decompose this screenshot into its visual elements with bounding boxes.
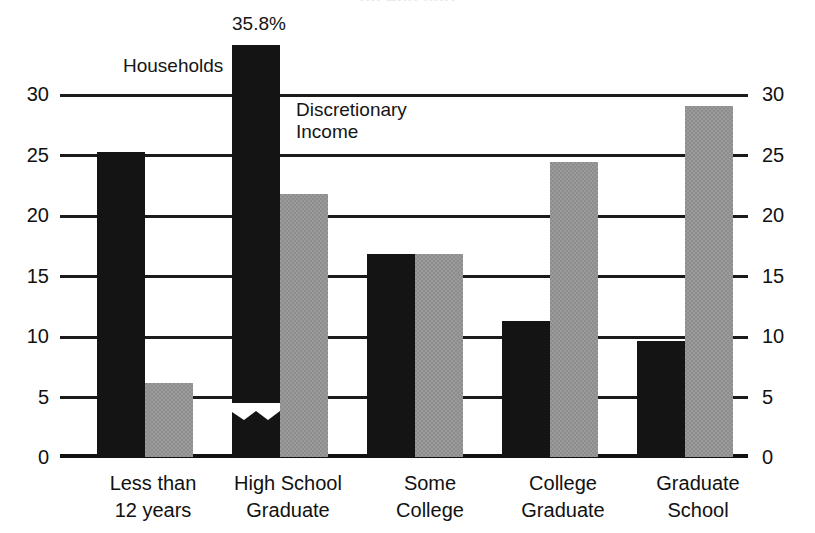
x-axis-label-line2: Graduate: [210, 497, 366, 524]
x-axis-label-line1: Graduate: [620, 470, 776, 497]
gridline-25: [60, 154, 748, 157]
plot-area: [60, 94, 748, 457]
bar-discretionary-some-college: [415, 254, 463, 457]
x-axis-label-less-than-12-years: Less than 12 years: [75, 470, 231, 524]
peak-value-label: 35.8%: [232, 14, 286, 34]
bar-households-less-than-12-years: [97, 152, 145, 457]
x-axis-label-college-graduate: College Graduate: [485, 470, 641, 524]
y-axis-tick-right-5: 5: [762, 387, 806, 407]
x-axis-label-line1: High School: [210, 470, 366, 497]
y-axis-tick-left-0: 0: [5, 447, 49, 467]
x-axis-label-line2: Graduate: [485, 497, 641, 524]
series-label-discretionary-line1: Discretionary: [296, 99, 407, 121]
x-axis-label-line2: School: [620, 497, 776, 524]
axis-break-zigzag-icon: [232, 403, 280, 425]
bar-households-graduate-school: [637, 341, 685, 457]
bar-households-college-graduate: [502, 321, 550, 457]
x-axis-label-line1: College: [485, 470, 641, 497]
bar-households-some-college: [367, 254, 415, 457]
series-label-households: Households: [123, 55, 223, 77]
bar-discretionary-graduate-school: [685, 106, 733, 457]
y-axis-tick-right-20: 20: [762, 205, 806, 225]
gridline-30: [60, 94, 748, 97]
chart-root: (In Percent) 30 25 20 15 10 5 0 30 25 20…: [0, 0, 815, 533]
bar-discretionary-college-graduate: [550, 162, 598, 457]
gridline-20: [60, 215, 748, 218]
y-axis-tick-left-20: 20: [5, 205, 49, 225]
x-axis-label-line2: 12 years: [75, 497, 231, 524]
y-axis-tick-right-10: 10: [762, 326, 806, 346]
y-axis-tick-right-25: 25: [762, 145, 806, 165]
y-axis-tick-left-5: 5: [5, 387, 49, 407]
y-axis-tick-left-10: 10: [5, 326, 49, 346]
y-axis-tick-right-0: 0: [762, 447, 806, 467]
y-axis-tick-right-30: 30: [762, 84, 806, 104]
y-axis-tick-left-30: 30: [5, 84, 49, 104]
x-axis-label-high-school-graduate: High School Graduate: [210, 470, 366, 524]
bar-households-high-school-graduate: [232, 45, 280, 457]
x-axis-label-graduate-school: Graduate School: [620, 470, 776, 524]
y-axis-tick-left-25: 25: [5, 145, 49, 165]
y-axis-tick-right-15: 15: [762, 266, 806, 286]
bar-discretionary-high-school-graduate: [280, 194, 328, 457]
y-axis-tick-left-15: 15: [5, 266, 49, 286]
series-label-discretionary-line2: Income: [296, 121, 358, 143]
chart-title: (In Percent): [0, 0, 815, 1]
bar-discretionary-less-than-12-years: [145, 383, 193, 457]
x-axis-label-line1: Less than: [75, 470, 231, 497]
